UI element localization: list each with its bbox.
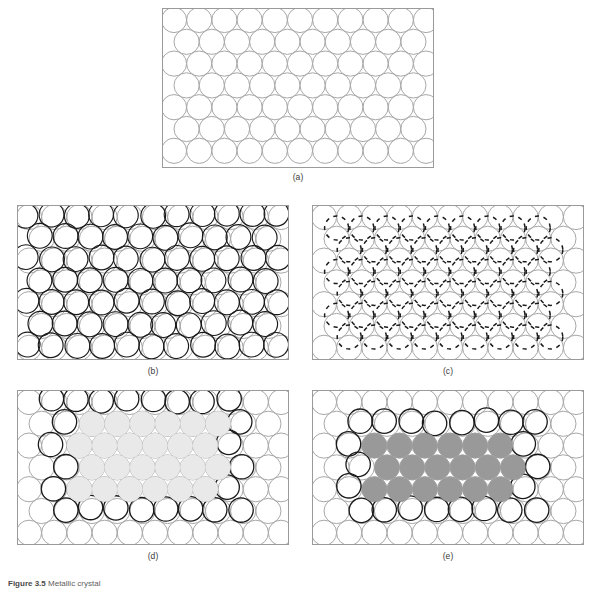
- figure-root: (a) (b) (c) (d) (e) Figure 3.5 Metallic …: [0, 0, 593, 590]
- panel-e: (e): [312, 390, 584, 545]
- panel-c-label: (c): [312, 366, 584, 376]
- panel-a-label: (a): [162, 172, 434, 182]
- panel-e-diagram: [312, 390, 584, 545]
- grain-nucleus: [67, 412, 230, 502]
- base-lattice: [312, 205, 584, 360]
- panel-a: (a): [162, 8, 434, 168]
- panel-e-label: (e): [312, 551, 584, 561]
- panel-c-diagram: [312, 205, 584, 360]
- panel-a-diagram: [162, 8, 434, 168]
- base-lattice: [162, 8, 434, 163]
- panel-d-diagram: [17, 390, 289, 545]
- panel-b: (b): [17, 205, 289, 360]
- panel-d-label: (d): [17, 551, 289, 561]
- panel-d: (d): [17, 390, 289, 545]
- figure-caption: Figure 3.5 Metallic crystal: [8, 579, 568, 589]
- figure-caption-number: Figure 3.5: [8, 579, 46, 588]
- grain-core: [362, 433, 525, 501]
- panel-c: (c): [312, 205, 584, 360]
- interstitial-lattice: [325, 216, 563, 349]
- panel-b-diagram: [17, 205, 289, 360]
- figure-caption-text: Metallic crystal: [48, 579, 100, 588]
- panel-b-label: (b): [17, 366, 289, 376]
